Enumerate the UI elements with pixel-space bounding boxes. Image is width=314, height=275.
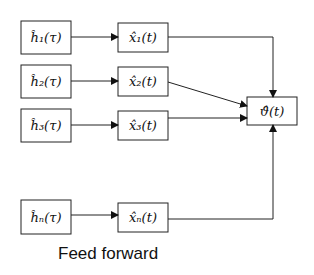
svg-text:x̂ₙ(t): x̂ₙ(t) <box>129 210 157 225</box>
estimate-node-2: x̂₂(t) <box>118 67 168 96</box>
feed-forward-diagram: ĥ₁(τ) ĥ₂(τ) ĥ₃(τ) ĥₙ(τ) x̂₁(t) x̂₂(t) x̂… <box>0 0 314 275</box>
diagram-caption: Feed forward <box>58 244 158 264</box>
arrow-to-output-n <box>168 125 273 219</box>
svg-text:ĥ₂(τ): ĥ₂(τ) <box>31 74 62 89</box>
svg-text:ĥ₃(τ): ĥ₃(τ) <box>31 118 62 133</box>
input-node-n: ĥₙ(τ) <box>21 200 71 234</box>
estimate-node-3: x̂₃(t) <box>118 111 168 140</box>
arrow-to-output-1 <box>168 37 273 97</box>
svg-text:x̂₃(t): x̂₃(t) <box>129 118 157 133</box>
output-node: ϑ̂(t) <box>247 97 297 125</box>
input-node-1: ĥ₁(τ) <box>21 21 71 54</box>
svg-text:x̂₁(t): x̂₁(t) <box>129 30 157 45</box>
estimate-node-1: x̂₁(t) <box>118 23 168 52</box>
svg-text:ĥ₁(τ): ĥ₁(τ) <box>31 30 62 45</box>
svg-text:ĥₙ(τ): ĥₙ(τ) <box>31 210 62 225</box>
input-node-3: ĥ₃(τ) <box>21 109 71 142</box>
input-node-2: ĥ₂(τ) <box>21 65 71 98</box>
svg-text:x̂₂(t): x̂₂(t) <box>129 74 157 89</box>
arrow-to-output-2 <box>168 82 247 106</box>
estimate-node-n: x̂ₙ(t) <box>118 203 168 232</box>
arrows <box>71 37 273 219</box>
svg-text:ϑ̂(t): ϑ̂(t) <box>260 104 285 119</box>
